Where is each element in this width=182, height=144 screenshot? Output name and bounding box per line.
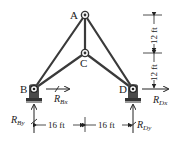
joint-c bbox=[81, 49, 88, 56]
label-r-dy: RDy bbox=[136, 119, 152, 132]
label-r-by: RBy bbox=[10, 114, 25, 127]
dimension-top-12ft: 12 ft bbox=[149, 27, 159, 44]
label-r-bx: RBx bbox=[53, 93, 68, 106]
truss-diagram: A C B D RBx RDx RBy RDy 16 ft 16 ft bbox=[0, 0, 182, 144]
member-bc bbox=[34, 53, 85, 89]
reaction-arrow-dy bbox=[130, 105, 136, 133]
joint-d bbox=[130, 86, 137, 93]
dimension-right-16ft: 16 ft bbox=[98, 120, 115, 130]
label-joint-b: B bbox=[20, 83, 27, 95]
dimension-bottom-12ft: 12 ft bbox=[149, 64, 159, 81]
reaction-arrow-by bbox=[31, 105, 37, 133]
label-r-dx: RDx bbox=[152, 94, 168, 107]
label-joint-c: C bbox=[80, 57, 87, 69]
reaction-arrow-bx bbox=[46, 86, 69, 92]
joint-a bbox=[81, 11, 88, 18]
label-joint-a: A bbox=[70, 9, 78, 21]
dimension-left-16ft: 16 ft bbox=[48, 120, 65, 130]
joint-b bbox=[31, 86, 38, 93]
member-ad bbox=[85, 15, 133, 89]
member-ab bbox=[34, 15, 85, 89]
label-joint-d: D bbox=[119, 83, 127, 95]
